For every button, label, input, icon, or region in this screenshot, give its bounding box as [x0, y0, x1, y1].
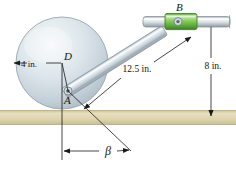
label-point-A: A [63, 94, 71, 106]
ground-surface [0, 110, 236, 125]
label-point-D: D [63, 50, 72, 62]
label-radius-dimension: 4 in. [21, 59, 37, 69]
label-point-B: B [176, 1, 183, 13]
label-height-dimension: 8 in. [205, 61, 222, 71]
pin-joint-B [174, 18, 182, 26]
label-angle-dimension: β [104, 144, 111, 158]
label-rod-length-dimension: 12.5 in. [123, 64, 152, 74]
figure-canvas: D A B 4 in. 12.5 in. 8 in. β [0, 0, 236, 169]
angle-dimension-arrows [64, 150, 129, 151]
